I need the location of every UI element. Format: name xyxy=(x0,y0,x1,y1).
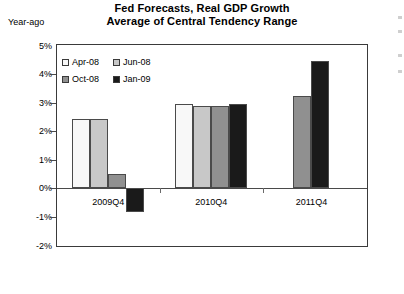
bar-2010Q4-Oct-08 xyxy=(211,106,229,187)
bleed-mark xyxy=(398,54,402,57)
legend-label: Jun-08 xyxy=(123,57,151,68)
bar-2009Q4-Jun-08 xyxy=(90,119,108,188)
category-label-2011Q4: 2011Q4 xyxy=(296,197,327,207)
category-label-2010Q4: 2010Q4 xyxy=(195,197,227,207)
yaxis-unit-label: Year-ago xyxy=(8,17,44,28)
bar-2009Q4-Apr-08 xyxy=(72,119,90,188)
legend-item-Apr-08: Apr-08 xyxy=(62,57,99,68)
y-axis-tick-label: 3% xyxy=(8,99,52,108)
legend-item-Jun-08: Jun-08 xyxy=(113,57,151,68)
y-axis-tick-label: 5% xyxy=(8,42,52,51)
y-axis-tick-label: -1% xyxy=(8,213,52,222)
legend-label: Jan-09 xyxy=(123,74,151,85)
bleed-mark xyxy=(398,70,402,73)
bar-2010Q4-Apr-08 xyxy=(175,104,193,188)
legend-swatch-icon xyxy=(113,59,120,66)
y-axis-tick-label: 4% xyxy=(8,70,52,79)
y-axis-tick-label: 0% xyxy=(8,184,52,193)
legend-item-Jan-09: Jan-09 xyxy=(113,74,151,85)
y-axis-tick-label: 1% xyxy=(8,156,52,165)
bar-2010Q4-Jun-08 xyxy=(193,106,211,187)
x-axis-tick-mark xyxy=(263,188,264,193)
bar-2009Q4-Oct-08 xyxy=(108,174,126,188)
zero-baseline xyxy=(57,188,367,189)
y-axis-tick-label: -2% xyxy=(8,242,52,251)
bleed-mark xyxy=(398,30,402,33)
bleed-mark xyxy=(398,16,402,19)
chart-title-line1: Fed Forecasts, Real GDP Growth xyxy=(114,2,289,14)
bar-2011Q4-Jan-09 xyxy=(311,61,329,188)
legend-swatch-icon xyxy=(62,76,69,83)
legend-swatch-icon xyxy=(62,59,69,66)
bar-2010Q4-Jan-09 xyxy=(229,104,247,188)
chart-title-line2: Average of Central Tendency Range xyxy=(0,15,404,28)
legend-label: Oct-08 xyxy=(72,74,99,85)
page-edge-bleed-marks xyxy=(394,16,402,86)
chart-legend: Apr-08Jun-08Oct-08Jan-09 xyxy=(62,57,151,85)
legend-item-Oct-08: Oct-08 xyxy=(62,74,99,85)
bar-2009Q4-Jan-09 xyxy=(126,188,144,212)
page-title: Fed Forecasts, Real GDP Growth Average o… xyxy=(0,2,404,28)
y-axis-tick-label: 2% xyxy=(8,127,52,136)
legend-label: Apr-08 xyxy=(72,57,99,68)
x-axis-tick-mark xyxy=(160,188,161,193)
legend-swatch-icon xyxy=(113,76,120,83)
bar-2011Q4-Oct-08 xyxy=(293,96,311,187)
category-label-2009Q4: 2009Q4 xyxy=(92,197,124,207)
